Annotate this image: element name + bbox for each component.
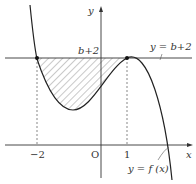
line-equation-label: y = b+2 [149,41,192,52]
x-axis-label: x [186,149,192,160]
tick-label-minus-2: −2 [30,149,45,160]
point-x-1 [125,56,129,60]
y-axis-arrow-icon [99,6,103,12]
y-level-label: b+2 [78,45,99,56]
y-axis-label: y [87,5,94,16]
curve-label-leader [158,147,169,160]
x-axis-arrow-icon [187,143,193,147]
tick-label-1: 1 [124,149,130,160]
point-x-minus-2 [35,56,39,60]
line-label-leader [160,54,162,60]
cubic-graph-figure: y x O −2 1 b+2 y = b+2 y = f (x) [0,0,196,184]
origin-label: O [91,149,99,160]
curve-equation-label: y = f (x) [127,163,169,174]
shaded-region [37,58,127,110]
